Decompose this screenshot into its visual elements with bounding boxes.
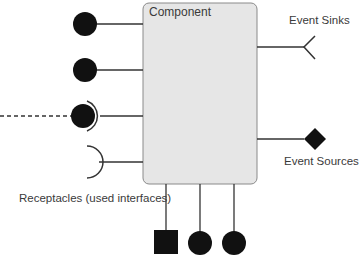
facet-circle-icon — [73, 12, 97, 36]
receptacle-port — [87, 146, 143, 178]
receptacles-label: Receptacles (used interfaces) — [19, 192, 171, 204]
event-sources-label: Event Sources — [284, 155, 359, 167]
facet-circle-icon — [73, 58, 97, 82]
connected-facet-port — [0, 101, 143, 131]
circle-port-icon — [188, 231, 212, 255]
chevron-sink-icon — [304, 36, 315, 59]
facet-port-2 — [73, 58, 143, 82]
event-sinks-label: Event Sinks — [289, 14, 350, 26]
event-sink-port — [257, 36, 315, 59]
event-source-port — [257, 128, 326, 150]
facet-port-1 — [73, 12, 143, 36]
bottom-port-circle-2 — [222, 184, 246, 255]
diamond-source-icon — [304, 128, 326, 150]
component-box — [143, 3, 257, 184]
circle-port-icon — [222, 231, 246, 255]
bottom-port-circle-1 — [188, 184, 212, 255]
square-port-icon — [154, 230, 178, 254]
component-title: Component — [149, 5, 211, 19]
facet-circle-icon — [71, 104, 95, 128]
